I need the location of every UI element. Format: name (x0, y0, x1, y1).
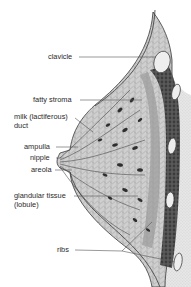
label-fatty-stroma: fatty stroma (33, 96, 72, 105)
label-ribs: ribs (57, 246, 69, 255)
label-glandular-line2: (lobule) (14, 201, 39, 210)
leader-ribs (75, 250, 122, 251)
label-areola: areola (31, 166, 52, 175)
label-clavicle: clavicle (48, 53, 72, 62)
label-milk-duct-line2: duct (14, 122, 28, 131)
label-ampulla: ampulla (24, 143, 50, 152)
label-nipple: nipple (30, 154, 50, 163)
